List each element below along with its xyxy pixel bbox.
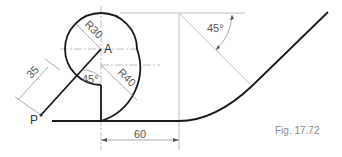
label-point-p: P [30, 113, 38, 127]
label-60: 60 [134, 128, 146, 140]
arrowhead [101, 138, 107, 142]
arrowhead [216, 45, 220, 50]
dim-35-ext2 [45, 59, 60, 70]
technical-drawing: R30 R40 35 45° 45° 60 A P Fig. 17.72 [0, 0, 342, 157]
arrowhead [230, 15, 234, 20]
label-angle-left: 45° [82, 73, 99, 85]
figure-caption: Fig. 17.72 [275, 125, 320, 136]
label-r30: R30 [83, 18, 106, 41]
arrowhead [173, 138, 179, 142]
label-point-a: A [104, 42, 112, 56]
label-r40: R40 [116, 66, 139, 89]
label-angle-right: 45° [207, 22, 224, 34]
